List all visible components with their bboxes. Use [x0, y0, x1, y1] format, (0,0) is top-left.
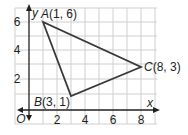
y-tick-6: 6 [14, 15, 21, 29]
point-c-name: C [144, 60, 153, 74]
point-a-coords: (1, 6) [49, 7, 77, 21]
point-b-label: B(3, 1) [34, 95, 70, 109]
point-a-name: A [40, 7, 49, 21]
point-c-coords: (8, 3) [153, 60, 181, 74]
origin-label: O [16, 112, 25, 126]
point-c-label: C(8, 3) [144, 60, 181, 74]
y-axis-neg-arrow-icon [26, 115, 32, 121]
y-tick-4: 4 [14, 43, 21, 57]
x-tick-8: 8 [138, 113, 145, 127]
x-axis-arrow-icon [153, 107, 160, 113]
coordinate-plane: 6 4 2 2 4 6 8 O x y A(1, 6) B(3, 1) C(8,… [0, 0, 188, 135]
y-axis-label: y [31, 6, 39, 20]
x-tick-2: 2 [54, 113, 61, 127]
point-a-label: A(1, 6) [40, 7, 77, 21]
triangle-abc [43, 22, 141, 96]
point-b-coords: (3, 1) [42, 95, 70, 109]
x-tick-4: 4 [82, 113, 89, 127]
point-b-name: B [34, 95, 42, 109]
x-tick-6: 6 [110, 113, 117, 127]
x-axis-label: x [146, 96, 154, 110]
y-tick-2: 2 [14, 72, 21, 86]
